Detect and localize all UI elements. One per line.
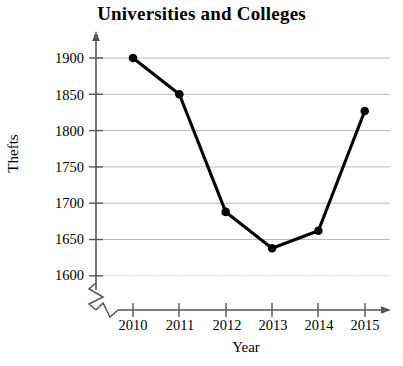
data-point-2014 (314, 226, 323, 235)
y-axis (92, 31, 100, 290)
gridlines (96, 58, 390, 276)
data-point-2011 (175, 90, 184, 99)
x-axis-arrow-icon (381, 306, 391, 314)
y-axis-arrow-icon (92, 31, 100, 41)
data-point-2012 (221, 208, 230, 217)
data-point-2010 (129, 54, 138, 63)
chart-container: Universities and Colleges Thefts Year 19… (0, 0, 403, 366)
data-point-2013 (268, 244, 277, 253)
data-series-line (133, 58, 365, 248)
data-point-2015 (360, 107, 369, 116)
x-axis-break-icon (96, 303, 118, 317)
x-axis (118, 306, 391, 314)
chart-plot-area (0, 0, 403, 366)
